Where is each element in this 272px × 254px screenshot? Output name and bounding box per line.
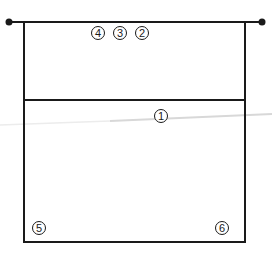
- player-position-5: 5: [32, 221, 46, 235]
- player-position-2: 2: [135, 26, 149, 40]
- net-post-left-icon: [6, 19, 13, 26]
- player-position-4: 4: [91, 26, 105, 40]
- player-position-6: 6: [215, 221, 229, 235]
- player-position-3: 3: [113, 26, 127, 40]
- player-position-1: 1: [154, 109, 168, 123]
- faint-guide-line-2: [0, 121, 110, 125]
- faint-guide-line: [110, 114, 272, 121]
- court-diagram: [0, 0, 272, 254]
- net-post-right-icon: [259, 19, 266, 26]
